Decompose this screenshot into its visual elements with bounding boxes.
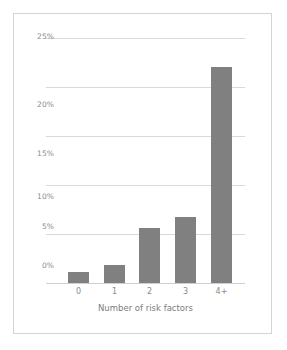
chart-frame: [13, 13, 272, 334]
